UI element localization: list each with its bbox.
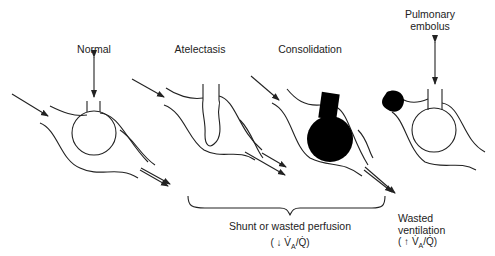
embolus-clot bbox=[382, 90, 404, 111]
panel-label-consolidation: Consolidation bbox=[268, 43, 352, 55]
blood-outflow-arrow-icon bbox=[140, 170, 168, 186]
shunt-label: Shunt or wasted perfusion bbox=[210, 220, 370, 232]
capillary-upper-left bbox=[400, 98, 428, 102]
capillary-upper-right bbox=[219, 96, 262, 150]
collapsed-alveolus bbox=[203, 84, 220, 146]
capillary-lower-left-trace bbox=[120, 130, 155, 165]
capillary-upper-left bbox=[50, 106, 87, 115]
capillary-lower-left-trace bbox=[358, 130, 373, 158]
panel-label-embolus: embolus bbox=[395, 20, 465, 32]
blood-inflow-arrow-icon bbox=[12, 94, 48, 116]
wasted-label-line1: Wasted bbox=[398, 212, 433, 224]
ratio-v: V̇ bbox=[284, 237, 291, 248]
blood-outflow-arrow-icon bbox=[365, 167, 395, 193]
consolidated-alveolus bbox=[307, 92, 353, 162]
blood-outflow-arrow-icon bbox=[364, 170, 392, 192]
capillary-lower bbox=[392, 112, 476, 170]
panel-label-pulmonary: Pulmonary bbox=[395, 8, 465, 20]
alveolus-circle bbox=[412, 108, 456, 152]
ratio-v: V̇ bbox=[412, 236, 419, 247]
panel-label-normal: Normal bbox=[72, 43, 116, 55]
ratio-prefix: ( ↓ bbox=[270, 237, 284, 248]
capillary-upper-left bbox=[287, 89, 320, 105]
capillary-upper-left bbox=[166, 88, 203, 98]
capillary-upper-right bbox=[442, 103, 485, 152]
blood-outflow-arrow-icon bbox=[141, 168, 170, 184]
pulmonary-embolus-unit bbox=[358, 42, 485, 193]
capillary-lower bbox=[164, 105, 255, 160]
capillary-lower bbox=[40, 123, 138, 178]
blood-outflow-arrow-icon bbox=[262, 153, 286, 167]
shunt-brace bbox=[188, 196, 385, 215]
normal-alveolus-unit bbox=[12, 57, 168, 186]
ratio-q: /Q̇) bbox=[423, 236, 437, 247]
alveolus-circle bbox=[72, 111, 116, 155]
capillary-upper-right bbox=[100, 113, 148, 162]
blood-inflow-arrow-icon bbox=[251, 76, 279, 100]
wasted-label-line2: ventilation bbox=[398, 224, 445, 236]
shunt-ratio: ( ↓ V̇A/Q̇) bbox=[240, 237, 340, 253]
wasted-ratio: ( ↑ V̇A/Q̇) bbox=[398, 236, 437, 252]
panel-label-atelectasis: Atelectasis bbox=[165, 43, 235, 55]
blood-inflow-arrow-icon bbox=[132, 79, 164, 97]
atelectasis-unit bbox=[120, 79, 286, 184]
ratio-prefix: ( ↑ bbox=[398, 236, 412, 247]
ratio-q: /Q̇) bbox=[296, 237, 310, 248]
